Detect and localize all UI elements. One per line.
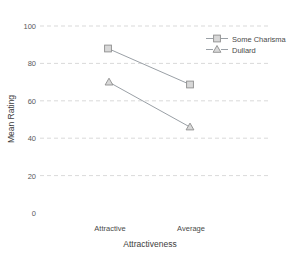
x-axis-tick-labels: Attractive Average [94, 224, 205, 233]
legend-item-some-charisma[interactable]: Some Charisma [206, 35, 287, 44]
legend-label-some-charisma: Some Charisma [232, 35, 287, 44]
y-tick-label: 0 [32, 209, 36, 218]
legend-marker-triangle [213, 46, 221, 53]
y-tick-label: 100 [23, 22, 36, 31]
series-dullard [105, 78, 194, 130]
chart-canvas: 100 80 60 40 20 0 Mean Rating Attractive… [0, 0, 295, 256]
line-chart: 100 80 60 40 20 0 Mean Rating Attractive… [0, 0, 295, 256]
legend: Some Charisma Dullard [206, 35, 287, 55]
series-line-dullard [109, 82, 190, 127]
legend-label-dullard: Dullard [232, 46, 256, 55]
y-tick-label: 60 [28, 97, 36, 106]
data-point-marker-triangle [186, 123, 194, 130]
x-axis-title: Attractiveness [123, 239, 176, 249]
data-point-marker-square [187, 81, 194, 88]
series-line-some-charisma [108, 49, 190, 85]
x-tick-label-average: Average [177, 224, 205, 233]
series-some-charisma [105, 45, 194, 88]
y-tick-label: 80 [28, 59, 36, 68]
data-point-marker-square [105, 45, 112, 52]
y-axis-title: Mean Rating [6, 95, 16, 143]
legend-item-dullard[interactable]: Dullard [206, 46, 256, 55]
legend-marker-square [214, 35, 221, 42]
data-point-marker-triangle [105, 78, 113, 85]
x-tick-label-attractive: Attractive [94, 224, 125, 233]
y-tick-label: 20 [28, 172, 36, 181]
y-tick-label: 40 [28, 134, 36, 143]
y-axis-tick-labels: 100 80 60 40 20 0 [23, 22, 36, 218]
